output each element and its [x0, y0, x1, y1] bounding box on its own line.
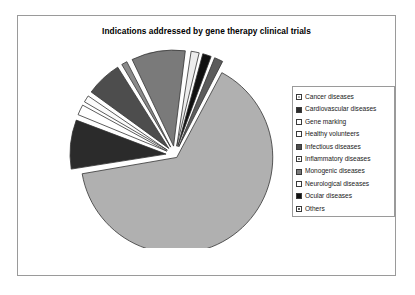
legend-swatch-icon — [296, 131, 302, 137]
chart-legend: Cancer diseases Cardiovascular diseases … — [292, 86, 395, 217]
legend-item-label: Cardiovascular diseases — [305, 103, 376, 115]
legend-item-monogenic-diseases: Monogenic diseases — [296, 165, 394, 177]
legend-swatch-icon — [296, 156, 302, 162]
legend-swatch-icon — [296, 119, 302, 125]
legend-item-label: Healthy volunteers — [305, 128, 359, 140]
legend-item-others: Others — [296, 203, 394, 215]
legend-swatch-icon — [296, 94, 302, 100]
legend-swatch-icon — [296, 193, 302, 199]
legend-item-healthy-volunteers: Healthy volunteers — [296, 128, 394, 140]
legend-item-label: Infectious diseases — [305, 141, 361, 153]
legend-item-label: Ocular diseases — [305, 190, 352, 202]
legend-swatch-icon — [296, 181, 302, 187]
legend-item-label: Gene marking — [305, 116, 346, 128]
legend-item-gene-marking: Gene marking — [296, 116, 394, 128]
legend-swatch-icon — [296, 144, 302, 150]
legend-item-label: Monogenic diseases — [305, 165, 365, 177]
legend-swatch-icon — [296, 107, 302, 113]
legend-item-cardiovascular-diseases: Cardiovascular diseases — [296, 103, 394, 115]
legend-item-cancer-diseases: Cancer diseases — [296, 91, 394, 103]
pie-chart — [40, 48, 290, 248]
legend-swatch-icon — [296, 169, 302, 175]
pie-slice-group — [70, 50, 273, 248]
legend-item-infectious-diseases: Infectious diseases — [296, 141, 394, 153]
legend-item-label: Neurological diseases — [305, 178, 369, 190]
legend-item-inflammatory-diseases: Inflammatory diseases — [296, 153, 394, 165]
legend-item-ocular-diseases: Ocular diseases — [296, 190, 394, 202]
legend-swatch-icon — [296, 206, 302, 212]
legend-item-label: Inflammatory diseases — [305, 153, 371, 165]
legend-item-label: Others — [305, 203, 325, 215]
legend-item-neurological-diseases: Neurological diseases — [296, 178, 394, 190]
pie-chart-svg — [40, 48, 290, 248]
legend-item-label: Cancer diseases — [305, 91, 354, 103]
page-title: Indications addressed by gene therapy cl… — [17, 26, 396, 36]
